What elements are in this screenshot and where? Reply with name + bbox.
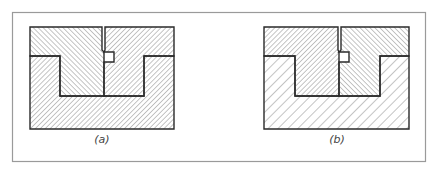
- caption-a: (a): [72, 133, 132, 146]
- diagram-canvas: [0, 0, 436, 171]
- caption-b: (b): [307, 133, 367, 146]
- panel-a: [30, 27, 174, 129]
- panel-b: [264, 27, 409, 129]
